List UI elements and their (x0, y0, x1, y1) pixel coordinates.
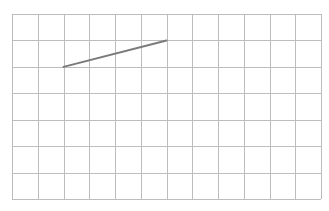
grid-lines (12, 14, 322, 200)
grid-canvas (0, 0, 329, 211)
